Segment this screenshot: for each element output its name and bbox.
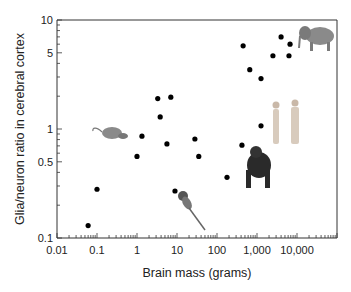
data-point	[86, 223, 91, 228]
x-tick-label: 10	[171, 244, 183, 256]
y-tick-label: 1	[47, 123, 53, 135]
elephant-icon	[299, 26, 334, 51]
y-tick-label: 0.1	[38, 232, 53, 244]
data-point	[139, 134, 144, 139]
x-tick-label: 1	[134, 244, 140, 256]
data-point	[155, 96, 160, 101]
y-tick-label: 0.5	[38, 156, 53, 168]
data-point	[278, 34, 283, 39]
scatter-chart: 0.010.11101001,00010,0000.10.51510 Brain…	[0, 0, 351, 292]
y-axis-label: Glia/neuron ratio in cerebral cortex	[13, 32, 27, 225]
data-point	[164, 141, 169, 146]
data-point	[196, 154, 201, 159]
data-point	[172, 188, 177, 193]
chimpanzee-icon	[246, 146, 271, 188]
data-point	[247, 67, 252, 72]
x-tick-label: 10,000	[280, 244, 314, 256]
data-point	[286, 53, 291, 58]
data-point	[192, 136, 197, 141]
x-tick-label: 1,000	[243, 244, 271, 256]
humans-icon	[273, 100, 300, 145]
data-point	[270, 53, 275, 58]
data-point	[258, 76, 263, 81]
data-point	[224, 175, 229, 180]
y-tick-label: 5	[47, 47, 53, 59]
data-point	[241, 43, 246, 48]
marmoset-icon	[178, 191, 205, 230]
x-tick-label: 0.1	[89, 244, 104, 256]
data-point	[287, 42, 292, 47]
shrew-icon	[93, 127, 128, 139]
x-axis-label: Brain mass (grams)	[142, 266, 251, 280]
data-point	[239, 143, 244, 148]
data-point	[158, 114, 163, 119]
y-tick-label: 10	[41, 14, 53, 26]
x-tick-label: 100	[208, 244, 226, 256]
x-tick-label: 0.01	[46, 244, 67, 256]
data-point	[168, 95, 173, 100]
data-point	[94, 187, 99, 192]
data-point	[258, 123, 263, 128]
data-point	[134, 154, 139, 159]
